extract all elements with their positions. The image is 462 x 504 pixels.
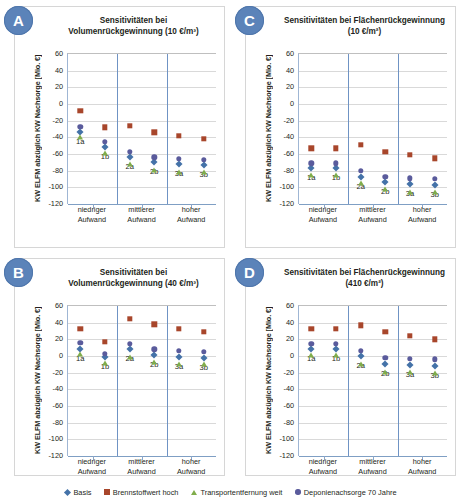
marker-deponienachsorge-70-jahre [152, 155, 157, 160]
y-tick-label: -60 [283, 149, 294, 158]
y-tick-label: -100 [279, 182, 294, 191]
panel-title-line1: Sensitivitäten bei Flächenrückgewinnung [280, 267, 449, 278]
gridline [68, 339, 216, 340]
marker-brennstoffwert-hoch [383, 329, 388, 334]
gridline [68, 356, 216, 357]
panel-frame: Sensitivitäten beiVolumenrückgewinnung (… [14, 6, 225, 248]
category-separator [348, 306, 349, 456]
x-category-label: niedrigerAufwand [309, 205, 337, 225]
marker-transportentfernung-weit [308, 353, 314, 358]
y-axis-ticks: 6040200-20-40-60-80-100-120 [41, 305, 65, 455]
marker-deponienachsorge-70-jahre [152, 347, 157, 352]
gridline [68, 154, 216, 155]
legend-diamond-icon [64, 488, 71, 495]
marker-basis [151, 352, 158, 359]
panel-title: Sensitivitäten beiVolumenrückgewinnung (… [49, 15, 218, 37]
x-category-line1: mittlerer [358, 205, 386, 215]
marker-deponienachsorge-70-jahre [333, 160, 338, 165]
y-tick-label: -60 [52, 401, 63, 410]
marker-deponienachsorge-70-jahre [201, 349, 206, 354]
legend-label: Deponienachsorge 70 Jahre [304, 488, 397, 497]
category-separator [398, 54, 399, 204]
y-tick-label: -20 [283, 367, 294, 376]
marker-transportentfernung-weit [102, 360, 108, 365]
y-tick-label: -60 [283, 401, 294, 410]
y-tick-label: -20 [52, 115, 63, 124]
gridline [299, 71, 447, 72]
marker-brennstoffwert-hoch [309, 145, 314, 150]
plot-area: 1a1b2a2b3a3b [298, 53, 447, 204]
gridline [68, 373, 216, 374]
panel-title: Sensitivitäten bei Flächenrückgewinnung(… [280, 267, 449, 289]
category-separator [117, 306, 118, 456]
y-tick-label: -120 [279, 451, 294, 460]
marker-transportentfernung-weit [358, 181, 364, 186]
marker-brennstoffwert-hoch [309, 326, 314, 331]
marker-transportentfernung-weit [407, 369, 413, 374]
marker-brennstoffwert-hoch [127, 316, 132, 321]
legend-item: Basis [65, 488, 91, 497]
marker-basis [382, 178, 389, 185]
x-category-line1: hoher [177, 457, 205, 467]
gridline [299, 187, 447, 188]
legend-label: Basis [73, 488, 91, 497]
x-category-line1: niedriger [309, 205, 337, 215]
panel-frame: Sensitivitäten beiVolumenrückgewinnung (… [14, 258, 225, 476]
marker-transportentfernung-weit [151, 359, 157, 364]
marker-transportentfernung-weit [308, 172, 314, 177]
y-tick-label: 60 [55, 49, 63, 58]
y-tick-label: 40 [286, 65, 294, 74]
y-tick-label: 20 [286, 334, 294, 343]
y-tick-label: 20 [55, 334, 63, 343]
y-tick-label: -120 [279, 199, 294, 208]
marker-transportentfernung-weit [201, 362, 207, 367]
x-category-line2: Aufwand [408, 215, 436, 225]
marker-deponienachsorge-70-jahre [358, 348, 363, 353]
y-tick-label: -40 [283, 132, 294, 141]
marker-transportentfernung-weit [358, 361, 364, 366]
marker-deponienachsorge-70-jahre [333, 341, 338, 346]
gridline [299, 439, 447, 440]
gridline [68, 104, 216, 105]
x-category-line2: Aufwand [408, 467, 436, 477]
legend-item: Brennstoffwert hoch [104, 488, 178, 497]
panel-title-line1: Sensitivitäten bei [49, 267, 218, 278]
marker-basis [431, 362, 438, 369]
x-axis-categories: niedrigerAufwandmittlererAufwandhoherAuf… [67, 457, 216, 481]
marker-brennstoffwert-hoch [102, 125, 107, 130]
marker-transportentfernung-weit [77, 352, 83, 357]
chart-panel-d: Sensitivitäten bei Flächenrückgewinnung(… [231, 252, 462, 480]
marker-brennstoffwert-hoch [201, 136, 206, 141]
marker-transportentfernung-weit [382, 187, 388, 192]
marker-brennstoffwert-hoch [432, 155, 437, 160]
gridline [299, 373, 447, 374]
x-category-label: hoherAufwand [408, 205, 436, 225]
y-tick-label: -80 [283, 165, 294, 174]
marker-transportentfernung-weit [102, 151, 108, 156]
gridline [68, 323, 216, 324]
marker-brennstoffwert-hoch [358, 322, 363, 327]
marker-brennstoffwert-hoch [152, 130, 157, 135]
marker-deponienachsorge-70-jahre [127, 341, 132, 346]
x-category-label: mittlererAufwand [127, 205, 155, 225]
gridline [299, 171, 447, 172]
marker-brennstoffwert-hoch [176, 326, 181, 331]
x-category-line1: mittlerer [127, 457, 155, 467]
marker-transportentfernung-weit [333, 353, 339, 358]
panel-title: Sensitivitäten beiVolumenrückgewinnung (… [49, 267, 218, 289]
category-separator [398, 306, 399, 456]
x-category-line1: mittlerer [127, 205, 155, 215]
legend-item: Deponienachsorge 70 Jahre [295, 488, 396, 497]
panel-frame: Sensitivitäten bei Flächenrückgewinnung(… [245, 6, 456, 248]
x-category-line1: hoher [408, 457, 436, 467]
x-category-label: niedrigerAufwand [78, 205, 106, 225]
marker-brennstoffwert-hoch [152, 322, 157, 327]
y-tick-label: -120 [48, 199, 63, 208]
x-category-label: hoherAufwand [408, 457, 436, 477]
panel-frame: Sensitivitäten bei Flächenrückgewinnung(… [245, 258, 456, 476]
gridline [299, 406, 447, 407]
y-tick-label: 20 [286, 82, 294, 91]
marker-basis [406, 362, 413, 369]
category-separator [117, 54, 118, 204]
x-category-line1: mittlerer [358, 457, 386, 467]
